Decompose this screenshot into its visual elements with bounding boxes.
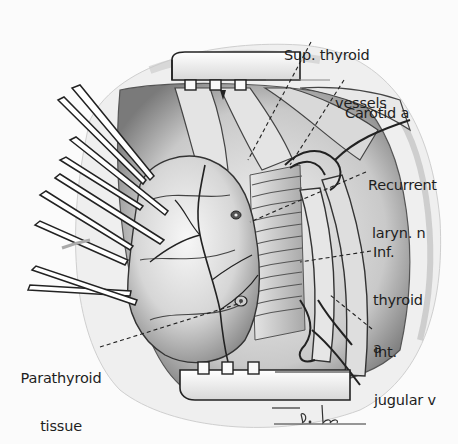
illustration-canvas: Sup. thyroid vessels Carotid a Recurrent… — [0, 0, 458, 444]
label-internal-jugular-vein: Int. jugular v — [374, 312, 436, 440]
label-inf-thyroid-line1: Inf. — [373, 244, 423, 260]
thyroid-lobe — [128, 156, 260, 362]
label-int-jugular-line2: jugular v — [374, 392, 436, 408]
label-recurrent-line1: Recurrent — [368, 177, 437, 193]
label-inf-thyroid-line2: thyroid — [373, 292, 423, 308]
label-parathyroid-tissue: Parathyroid tissue — [16, 338, 106, 444]
label-parathyroid-line1: Parathyroid — [16, 370, 106, 386]
label-parathyroid-line2: tissue — [16, 418, 106, 434]
label-carotid-line1: Carotid a — [345, 105, 409, 121]
label-int-jugular-line1: Int. — [374, 344, 436, 360]
label-sup-thyroid-line1: Sup. thyroid — [284, 47, 387, 63]
label-carotid-artery: Carotid a — [345, 73, 409, 153]
